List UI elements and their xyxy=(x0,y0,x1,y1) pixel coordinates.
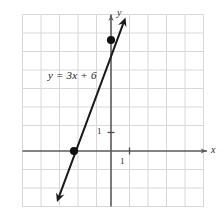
y-axis-label: y xyxy=(117,7,121,18)
point-x-intercept xyxy=(70,147,78,155)
y-tick-label-1: 1 xyxy=(97,126,102,136)
x-tick-label-1: 1 xyxy=(120,156,125,166)
plotted-line xyxy=(56,18,126,203)
equation-label: y = 3x + 6 xyxy=(48,69,97,81)
point-y-intercept xyxy=(107,36,115,44)
axes xyxy=(23,15,208,207)
x-axis-label: x xyxy=(211,144,215,155)
coordinate-plane xyxy=(0,0,224,222)
marked-points xyxy=(70,36,115,155)
graph-figure: y = 3x + 6 y x 1 1 xyxy=(0,0,224,222)
